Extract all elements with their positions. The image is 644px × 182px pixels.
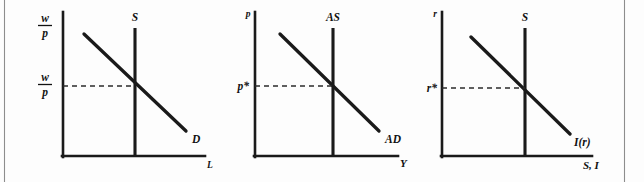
figure-root: w p w p S D L p p* AS AD Y r: [0, 0, 644, 182]
panel2-y-axis-label: p: [245, 9, 251, 19]
panel2-aggregate-demand-curve: [280, 34, 379, 131]
panel1-equilibrium-denominator: p: [41, 86, 48, 99]
panel-loanable-funds: r r* S I(r) S, I: [427, 9, 600, 171]
panel3-investment-curve-label: I(r): [573, 136, 591, 149]
panel3-equilibrium-label: r*: [427, 82, 437, 94]
panel1-equilibrium-numerator: w: [41, 71, 49, 83]
panel2-equilibrium-label: p*: [237, 80, 250, 93]
panel2-x-axis-label: Y: [400, 157, 408, 169]
panel-labour-market: w p w p S D L: [38, 11, 213, 170]
panel3-y-axis-label: r: [433, 9, 437, 19]
panel3-saving-curve-label: S: [522, 11, 528, 23]
panel2-aggregate-supply-label: AS: [325, 11, 340, 23]
panel-as-ad: p p* AS AD Y: [237, 9, 409, 169]
panel1-demand-curve-label: D: [191, 133, 201, 145]
panel3-investment-curve: [471, 37, 570, 134]
panel1-y-axis-label-fraction: w p: [38, 12, 52, 40]
economics-diagram-figure: w p w p S D L p p* AS AD Y r: [0, 0, 644, 182]
panel1-x-axis-label: L: [206, 160, 213, 170]
panel1-y-axis-numerator: w: [41, 12, 49, 24]
panel1-equilibrium-label-fraction: w p: [38, 71, 52, 99]
panel2-aggregate-demand-label: AD: [384, 133, 402, 145]
panel1-y-axis-denominator: p: [41, 27, 48, 40]
panel3-x-axis-label: S, I: [583, 159, 600, 171]
panel1-supply-curve-label: S: [132, 11, 138, 23]
